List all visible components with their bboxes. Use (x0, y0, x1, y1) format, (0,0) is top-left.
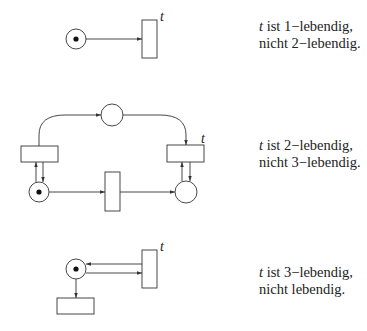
caption-line-2: nicht lebendig. (259, 281, 353, 298)
transition-bottom (57, 298, 94, 314)
caption-net-2: t ist 2−lebendig, nicht 3−lebendig. (259, 137, 361, 171)
transition-t (167, 145, 204, 162)
token-icon (73, 266, 78, 271)
caption-line-2: nicht 2−lebendig. (259, 35, 361, 52)
transition-t (142, 250, 157, 288)
caption-text: ist 1−lebendig, (263, 18, 353, 34)
transition-label: t (201, 131, 206, 146)
transition-middle (105, 172, 120, 211)
transition-t (142, 20, 157, 58)
caption-line-2: nicht 3−lebendig. (259, 154, 361, 171)
place-p1 (66, 259, 86, 279)
petri-net-1: t (66, 9, 165, 58)
place-bottom-right (175, 181, 197, 203)
caption-text: ist 2−lebendig, (263, 137, 353, 153)
caption-line-1: t ist 1−lebendig, (259, 18, 361, 35)
place-p1 (66, 29, 86, 49)
transition-label: t (160, 239, 165, 254)
transition-label: t (160, 9, 165, 24)
arc-top-to-t (123, 115, 186, 145)
caption-net-1: t ist 1−lebendig, nicht 2−lebendig. (259, 18, 361, 52)
caption-text: ist 3−lebendig, (263, 264, 353, 280)
petri-net-2: t (21, 104, 206, 211)
token-icon (36, 189, 41, 194)
arc-left-to-top (39, 115, 101, 146)
petri-net-3: t (57, 239, 165, 314)
place-bottom-left (29, 182, 49, 202)
token-icon (73, 36, 78, 41)
caption-line-1: t ist 3−lebendig, (259, 264, 353, 281)
place-top (101, 104, 123, 126)
caption-line-1: t ist 2−lebendig, (259, 137, 361, 154)
caption-net-3: t ist 3−lebendig, nicht lebendig. (259, 264, 353, 298)
transition-left (21, 146, 58, 162)
